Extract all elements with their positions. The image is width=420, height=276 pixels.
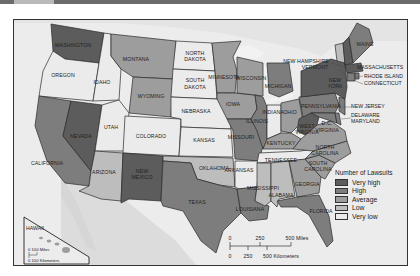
- label-mississippi: MISSISSIPPI: [247, 185, 279, 191]
- label-wyoming: WYOMING: [138, 93, 165, 99]
- label-montana: MONTANA: [123, 56, 150, 62]
- label-south-carolina-2: CAROLINA: [304, 166, 332, 172]
- legend-item-very-low: Very low: [335, 212, 405, 221]
- label-south-dakota-1: SOUTH: [186, 77, 205, 83]
- top-banner: [0, 0, 420, 4]
- label-utah: UTAH: [104, 124, 118, 130]
- legend-swatch: [335, 179, 348, 186]
- hawaii-island: [55, 242, 60, 245]
- label-ohio: OHIO: [283, 109, 297, 115]
- scale-miles-250: 250: [256, 235, 265, 241]
- label-dc: D.C.: [322, 120, 333, 126]
- label-rhode-island: RHODE ISLAND: [364, 73, 403, 79]
- legend-swatch: [335, 205, 348, 212]
- legend-label: Very high: [352, 179, 380, 186]
- legend-item-average: Average: [335, 195, 405, 204]
- legend: Number of Lawsuits Very high High Averag…: [335, 169, 405, 221]
- label-south-dakota-2: DAKOTA: [184, 84, 206, 90]
- label-alabama: ALABAMA: [268, 192, 294, 198]
- label-florida: FLORIDA: [309, 208, 333, 214]
- legend-item-very-high: Very high: [335, 178, 405, 187]
- state-rhode-island[interactable]: [355, 73, 359, 79]
- legend-swatch: [335, 213, 348, 220]
- legend-label: Low: [352, 204, 364, 211]
- scale-km-0: 0: [229, 253, 232, 259]
- label-tennessee: TENNESSEE: [265, 157, 298, 163]
- us-lawsuits-map: WASHINGTON OREGON CALIFORNIA NEVADA IDAH…: [13, 19, 408, 266]
- label-pennsylvania: PENNSYLVANIA: [301, 103, 342, 109]
- map-svg: WASHINGTON OREGON CALIFORNIA NEVADA IDAH…: [14, 20, 407, 265]
- label-nevada: NEVADA: [70, 133, 92, 139]
- legend-label: High: [352, 187, 366, 194]
- label-new-jersey: NEW JERSEY: [351, 103, 385, 109]
- legend-swatch: [335, 188, 348, 195]
- hawaii-island: [62, 247, 70, 253]
- legend-label: Very low: [352, 213, 378, 220]
- label-iowa: IOWA: [226, 101, 240, 107]
- label-virginia: VIRGINIA: [315, 127, 339, 133]
- hawaii-label: HAWAII: [26, 225, 44, 231]
- label-idaho: IDAHO: [94, 79, 111, 85]
- label-oregon: OREGON: [51, 72, 75, 78]
- scale-miles-0: 0: [229, 235, 232, 241]
- label-north-carolina-2: CAROLINA: [311, 150, 339, 156]
- scale-miles-500: 500 Miles: [285, 235, 308, 241]
- label-new-york-2: YORK: [327, 83, 343, 89]
- scale-km-250: 250: [244, 253, 253, 259]
- label-illinois: ILLINOIS: [246, 118, 269, 124]
- label-nebraska: NEBRASKA: [181, 108, 210, 114]
- label-louisiana: LOUISIANA: [236, 206, 265, 212]
- label-maryland: MARYLAND: [351, 118, 380, 124]
- legend-item-high: High: [335, 187, 405, 196]
- state-michigan[interactable]: [267, 63, 293, 97]
- label-connecticut: CONNECTICUT: [364, 80, 403, 86]
- label-maine: MAINE: [357, 41, 374, 47]
- label-washington: WASHINGTON: [55, 42, 92, 48]
- hawaii-scale-km: 0 100 Kilometers: [28, 258, 59, 263]
- legend-swatch: [335, 196, 348, 203]
- scale-bar: [230, 242, 291, 250]
- label-arizona: ARIZONA: [92, 169, 116, 175]
- hawaii-island: [39, 237, 43, 240]
- label-michigan: MICHIGAN: [265, 83, 292, 89]
- label-texas: TEXAS: [188, 199, 206, 205]
- label-california: CALIFORNIA: [31, 160, 64, 166]
- label-georgia: GEORGIA: [295, 181, 320, 187]
- banner-decoration: [14, 0, 54, 4]
- label-kansas: KANSAS: [193, 137, 215, 143]
- state-connecticut[interactable]: [347, 73, 355, 81]
- label-wisconsin: WISCONSIN: [236, 75, 267, 81]
- state-delaware[interactable]: [335, 113, 341, 125]
- label-west-virginia-2: VIRGINIA: [295, 129, 319, 135]
- label-massachusetts: MASSACHUSETTS: [357, 64, 404, 70]
- hawaii-scale-miles: 0 100 Miles: [28, 247, 49, 252]
- legend-title: Number of Lawsuits: [335, 169, 405, 176]
- label-kentucky: KENTUCKY: [266, 140, 295, 146]
- legend-label: Average: [352, 196, 377, 203]
- label-vermont: VERMONT: [302, 64, 329, 70]
- label-indiana: INDIANA: [262, 109, 284, 115]
- scale-km-500: 500 Kilometers: [263, 253, 299, 259]
- label-arkansas: ARKANSAS: [224, 167, 253, 173]
- label-missouri: MISSOURI: [228, 134, 254, 140]
- label-new-mexico-2: MEXICO: [131, 174, 152, 180]
- legend-item-low: Low: [335, 204, 405, 213]
- label-north-dakota-2: DAKOTA: [184, 56, 206, 62]
- hawaii-island: [47, 240, 52, 243]
- label-colorado: COLORADO: [136, 133, 167, 139]
